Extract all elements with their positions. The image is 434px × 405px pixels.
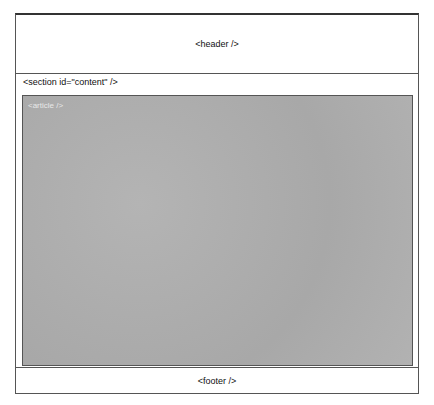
section-label: <section id="content" /> bbox=[23, 77, 118, 87]
header-region: <header /> bbox=[16, 15, 418, 74]
page-layout-diagram: <header /> <section id="content" /> <art… bbox=[15, 13, 419, 394]
article-region: <article /> bbox=[22, 95, 413, 366]
header-label: <header /> bbox=[195, 39, 239, 49]
footer-label: <footer /> bbox=[198, 376, 237, 386]
article-label: <article /> bbox=[28, 101, 63, 110]
footer-region: <footer /> bbox=[16, 367, 418, 393]
